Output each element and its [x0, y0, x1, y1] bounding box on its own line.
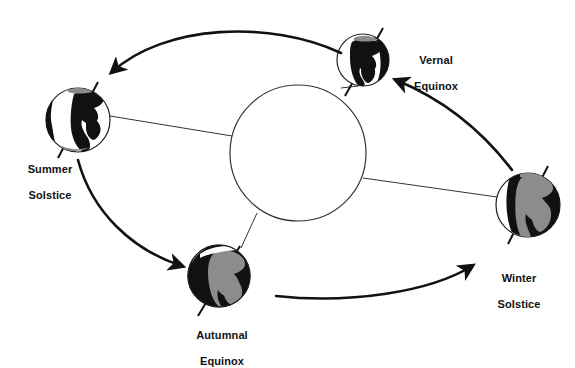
label-winter-solstice: Winter Solstice [479, 259, 559, 311]
label-autumnal-line1: Autumnal [196, 329, 248, 341]
ray-to-winter-icon [363, 178, 497, 197]
globe-surface [506, 166, 566, 244]
label-autumnal-line2: Equinox [200, 355, 244, 367]
label-autumnal-equinox: Autumnal Equinox [172, 316, 272, 368]
arrow-winter-to-vernal-icon [396, 80, 512, 170]
label-winter-line1: Winter [502, 272, 537, 284]
label-vernal-line1: Vernal [419, 54, 453, 66]
label-summer-line2: Solstice [29, 189, 72, 201]
globe-autumnal-equinox[interactable] [186, 243, 252, 316]
globe-vernal-equinox[interactable] [337, 28, 396, 96]
arrow-vernal-to-summer-icon [112, 32, 341, 72]
sun [230, 85, 366, 221]
label-vernal-line2: Equinox [414, 80, 458, 92]
label-summer-solstice: Summer Solstice [8, 150, 92, 202]
arrow-summer-to-autumnal-icon [78, 160, 182, 266]
ray-to-summer-icon [110, 116, 232, 136]
ray-to-autumnal-icon [241, 213, 257, 248]
globe-surface [186, 243, 252, 309]
arrow-autumnal-to-winter-icon [276, 266, 472, 298]
label-summer-line1: Summer [28, 163, 73, 175]
globe-winter-solstice[interactable] [496, 166, 566, 244]
label-vernal-equinox: Vernal Equinox [395, 41, 477, 93]
label-winter-line2: Solstice [498, 298, 541, 310]
